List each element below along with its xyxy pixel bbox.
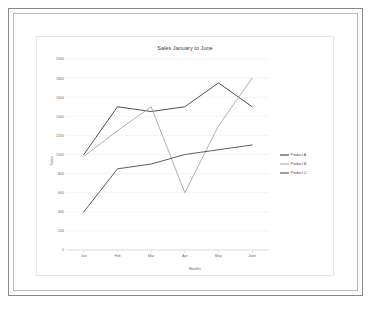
y-tick-label: 200 bbox=[58, 229, 64, 233]
plot-area-wrapper: 0200400600800100012001400160018002000 Ja… bbox=[37, 37, 333, 275]
line-chart-svg: 0200400600800100012001400160018002000 Ja… bbox=[37, 37, 335, 277]
x-tick-label: Mar bbox=[148, 254, 155, 258]
y-tick-label: 400 bbox=[58, 210, 64, 214]
series-line-product-a[interactable] bbox=[84, 83, 252, 155]
document-frame-inner: Sales January to June 020040060080010001… bbox=[13, 13, 358, 291]
x-tick-label: May bbox=[215, 254, 222, 258]
y-tick-label: 0 bbox=[62, 248, 64, 252]
legend-label-product-c[interactable]: Product C bbox=[291, 171, 307, 175]
data-series-group[interactable] bbox=[84, 78, 252, 212]
y-tick-label: 1800 bbox=[56, 77, 64, 81]
legend-group[interactable]: Product AProduct BProduct C bbox=[280, 153, 307, 175]
y-tick-labels-group: 0200400600800100012001400160018002000 bbox=[56, 57, 64, 252]
y-tick-label: 1000 bbox=[56, 153, 64, 157]
x-tick-label: June bbox=[248, 254, 256, 258]
x-axis-title: Months bbox=[189, 267, 201, 271]
y-tick-label: 800 bbox=[58, 172, 64, 176]
x-tick-label: Apr bbox=[182, 254, 188, 258]
series-line-product-c[interactable] bbox=[84, 145, 252, 212]
gridlines-group bbox=[67, 59, 269, 250]
x-tick-label: Jan bbox=[81, 254, 87, 258]
legend-label-product-a[interactable]: Product A bbox=[291, 153, 307, 157]
y-tick-label: 1600 bbox=[56, 96, 64, 100]
x-tick-labels-group: JanFebMarAprMayJune bbox=[81, 250, 256, 258]
y-axis-title: Sales bbox=[50, 156, 54, 165]
y-tick-label: 2000 bbox=[56, 57, 64, 61]
y-tick-label: 1400 bbox=[56, 115, 64, 119]
chart-container[interactable]: Sales January to June 020040060080010001… bbox=[36, 36, 334, 276]
legend-label-product-b[interactable]: Product B bbox=[291, 162, 307, 166]
y-tick-label: 1200 bbox=[56, 134, 64, 138]
document-frame-outer: Sales January to June 020040060080010001… bbox=[8, 8, 363, 296]
y-tick-label: 600 bbox=[58, 191, 64, 195]
x-tick-label: Feb bbox=[114, 254, 120, 258]
